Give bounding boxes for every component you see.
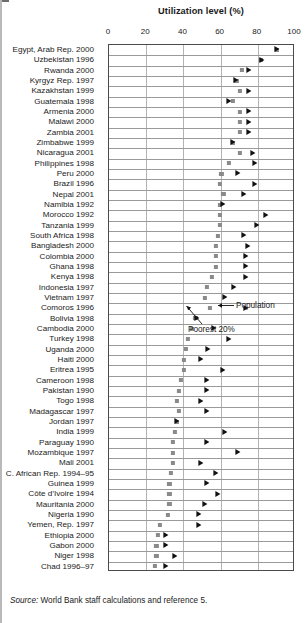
marker-poorest-20 (214, 254, 218, 258)
marker-population (252, 181, 257, 187)
marker-population (213, 470, 218, 476)
chart-row: Malawi 2000 (0, 116, 307, 126)
chart-row: Jordan 1997 (0, 416, 307, 426)
chart-row: Mali 2001 (0, 457, 307, 467)
chart-row: Guinea 1999 (0, 478, 307, 488)
marker-poorest-20 (154, 544, 158, 548)
marker-poorest-20 (186, 337, 190, 341)
marker-population (198, 460, 203, 466)
marker-poorest-20 (221, 192, 225, 196)
marker-poorest-20 (171, 451, 175, 455)
marker-poorest-20 (238, 120, 242, 124)
marker-population (215, 491, 220, 497)
marker-population (260, 57, 265, 63)
marker-population (204, 480, 209, 486)
marker-population (195, 315, 200, 321)
marker-poorest-20 (240, 68, 244, 72)
chart-row: Yemen, Rep. 1997 (0, 519, 307, 529)
figure-container: Utilization level (%) 020406080100 Egypt… (0, 0, 307, 623)
marker-poorest-20 (219, 172, 223, 176)
marker-poorest-20 (216, 234, 220, 238)
chart-row: Haiti 2000 (0, 354, 307, 364)
marker-population (226, 336, 231, 342)
marker-population (163, 532, 168, 538)
marker-population (263, 212, 268, 218)
x-axis-tick-labels: 020406080100 (0, 27, 307, 39)
marker-population (202, 501, 207, 507)
chart-title: Utilization level (%) (108, 6, 294, 17)
marker-population (241, 191, 246, 197)
chart-row: Bolivia 1998 (0, 313, 307, 323)
marker-population (243, 263, 248, 269)
chart-row: Zimbabwe 1999 (0, 137, 307, 147)
marker-population (236, 170, 241, 176)
chart-row: Tanzania 1999 (0, 220, 307, 230)
chart-row: Rwanda 2000 (0, 65, 307, 75)
marker-poorest-20 (182, 368, 186, 372)
marker-poorest-20 (238, 110, 242, 114)
chart-row: Gabon 2000 (0, 540, 307, 550)
chart-row: Armenia 2000 (0, 106, 307, 116)
source-note: Source: World Bank staff calculations an… (10, 596, 207, 605)
marker-population (221, 201, 226, 207)
chart-row: Guatemala 1998 (0, 96, 307, 106)
marker-poorest-20 (227, 161, 231, 165)
marker-poorest-20 (177, 389, 181, 393)
chart-row: Paraguay 1990 (0, 437, 307, 447)
x-tick-0: 0 (106, 27, 110, 36)
marker-population (247, 108, 252, 114)
marker-poorest-20 (167, 502, 171, 506)
marker-population (204, 408, 209, 414)
marker-population (223, 429, 228, 435)
x-tick-80: 80 (252, 27, 261, 36)
marker-population (230, 139, 235, 145)
marker-poorest-20 (158, 523, 162, 527)
marker-population (241, 232, 246, 238)
marker-population (163, 563, 168, 569)
marker-poorest-20 (177, 409, 181, 413)
chart-row: Cambodia 2000 (0, 323, 307, 333)
chart-row: Niger 1998 (0, 550, 307, 560)
marker-population (226, 98, 231, 104)
x-tick-60: 60 (215, 27, 224, 36)
chart-row: Philippines 1998 (0, 158, 307, 168)
marker-poorest-20 (217, 182, 221, 186)
chart-row: Eritrea 1995 (0, 364, 307, 374)
marker-poorest-20 (238, 151, 242, 155)
marker-poorest-20 (175, 399, 179, 403)
marker-population (247, 88, 252, 94)
chart-row: Togo 1998 (0, 395, 307, 405)
chart-row: India 1999 (0, 426, 307, 436)
marker-population (163, 542, 168, 548)
source-text: World Bank staff calculations and refere… (41, 596, 208, 605)
chart-row: Nicaragua 2001 (0, 147, 307, 157)
marker-poorest-20 (208, 306, 212, 310)
chart-row: Cameroon 1998 (0, 375, 307, 385)
chart-row: Kyrgyz Rep. 1997 (0, 75, 307, 85)
row-label-50: Chad 1996–97 (0, 561, 94, 572)
marker-population (206, 346, 211, 352)
chart-row: Peru 2000 (0, 168, 307, 178)
marker-poorest-20 (156, 533, 160, 537)
marker-population (204, 439, 209, 445)
chart-row: Ethiopia 2000 (0, 530, 307, 540)
marker-poorest-20 (173, 430, 177, 434)
marker-poorest-20 (178, 378, 182, 382)
chart-row: Uganda 2000 (0, 344, 307, 354)
marker-population (250, 150, 255, 156)
marker-population (234, 77, 239, 83)
marker-population (223, 294, 228, 300)
marker-population (204, 387, 209, 393)
chart-row: Ghana 1998 (0, 261, 307, 271)
chart-row: Indonesia 1997 (0, 282, 307, 292)
chart-row: Chad 1996–97 (0, 561, 307, 571)
chart-row: Mozambique 1997 (0, 447, 307, 457)
marker-poorest-20 (167, 482, 171, 486)
marker-population (172, 553, 177, 559)
marker-population (232, 284, 237, 290)
chart-row: Côte d’Ivoire 1994 (0, 488, 307, 498)
marker-poorest-20 (171, 461, 175, 465)
marker-poorest-20 (154, 554, 158, 558)
marker-population (197, 522, 202, 528)
chart-row: Madagascar 1997 (0, 406, 307, 416)
